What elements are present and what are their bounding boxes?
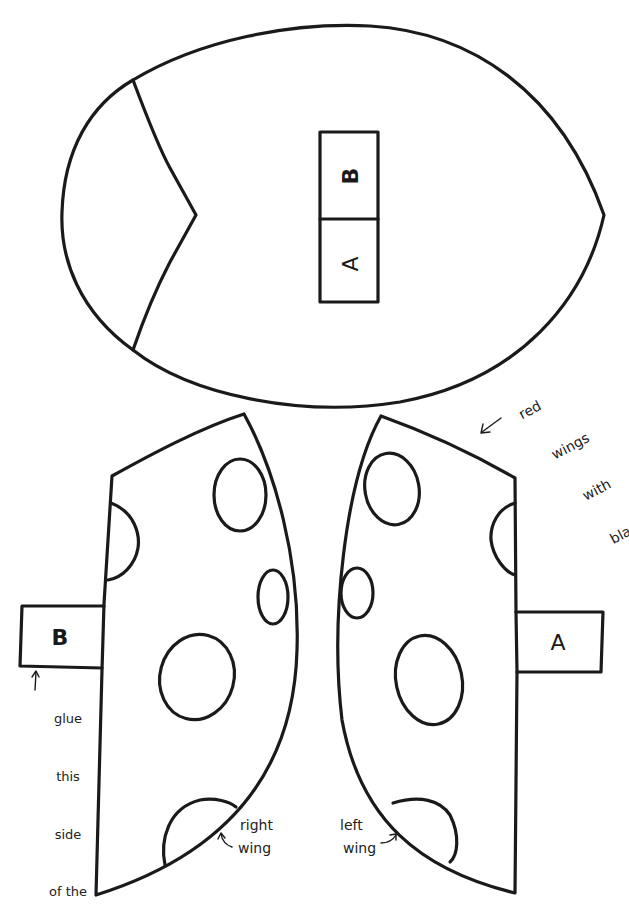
spot (214, 459, 266, 531)
color-note-line: red (516, 376, 584, 423)
right-wing-tab-label: B (52, 625, 69, 650)
spot (258, 570, 288, 624)
right-wing-caption-line1: right (240, 817, 273, 833)
glue-note-line: glue (40, 709, 96, 728)
spot (491, 503, 515, 575)
spot (341, 568, 373, 618)
spot (150, 626, 244, 728)
glue-note-line: this (40, 767, 96, 786)
glue-note-line: of the (40, 882, 96, 901)
left-wing-arrow-icon (381, 834, 396, 843)
left-wing-tab-label: A (550, 630, 565, 655)
color-note-line: black (588, 511, 629, 558)
body-outline (62, 25, 604, 407)
spot (393, 799, 457, 862)
color-note-line: wings (540, 421, 608, 468)
spot (164, 799, 236, 865)
spot (359, 449, 425, 529)
head-divider (133, 80, 196, 350)
right-wing-caption-line2: wing (238, 840, 271, 856)
ladybird-body: B A (62, 25, 604, 407)
left-wing-caption-line2: wing (343, 840, 376, 856)
tab-slot-box (320, 132, 378, 302)
glue-note-arrow-icon (32, 671, 39, 690)
glue-note: glue this side of the tab, fold it and s… (40, 671, 96, 923)
color-note-line: with (564, 466, 629, 513)
color-note-arrow-icon (481, 418, 501, 433)
spot (387, 629, 470, 731)
left-wing-caption-line1: left (340, 817, 363, 833)
body-slot-a: A (338, 256, 363, 271)
right-wing-arrow-icon (218, 833, 232, 847)
spot (108, 503, 138, 580)
body-slot-b: B (338, 168, 363, 185)
glue-note-line: side (40, 825, 96, 844)
